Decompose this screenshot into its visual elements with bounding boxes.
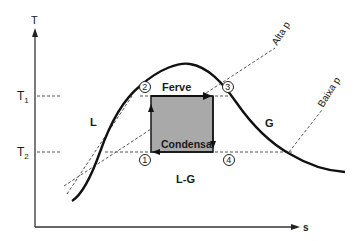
isobar-alta-p-low-line bbox=[67, 96, 132, 194]
svg-text:1: 1 bbox=[142, 155, 147, 165]
point-2: 2 bbox=[140, 82, 151, 93]
x-axis-label: s bbox=[303, 222, 309, 233]
svg-text:2: 2 bbox=[142, 82, 147, 92]
x-axis-arrow-icon bbox=[291, 224, 300, 230]
condensa-label: Condensa bbox=[161, 138, 212, 150]
svg-text:3: 3 bbox=[225, 82, 230, 92]
point-4: 4 bbox=[224, 155, 235, 166]
region-mixture-label: L-G bbox=[176, 173, 195, 185]
y-tick-t1: T1 bbox=[17, 89, 29, 105]
ts-diagram: T s T1 T2 Alta p Baixa p Ferve Condensa bbox=[0, 0, 364, 241]
isobar-baixa-p-label: Baixa p bbox=[315, 75, 342, 109]
svg-text:4: 4 bbox=[226, 155, 231, 165]
region-liquid-label: L bbox=[90, 116, 97, 128]
isobar-baixa-p-line bbox=[289, 110, 322, 152]
y-tick-t2: T2 bbox=[17, 145, 29, 161]
y-axis-arrow-icon bbox=[32, 28, 38, 37]
region-gas-label: G bbox=[265, 117, 274, 129]
y-axis-label: T bbox=[31, 14, 38, 26]
svg-text:T1: T1 bbox=[17, 89, 29, 105]
isobar-alta-p-label: Alta p bbox=[269, 19, 292, 47]
svg-text:T2: T2 bbox=[17, 145, 29, 161]
point-1: 1 bbox=[140, 155, 151, 166]
point-3: 3 bbox=[223, 82, 234, 93]
ferve-label: Ferve bbox=[162, 81, 191, 93]
